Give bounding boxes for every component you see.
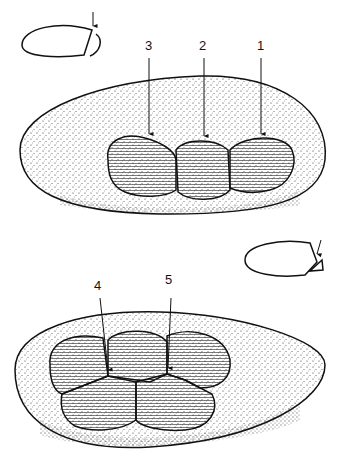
label-3: 3 <box>145 38 152 53</box>
cell-2 <box>176 141 230 199</box>
label-2: 2 <box>199 38 206 53</box>
label-1: 1 <box>257 38 264 53</box>
diagram-canvas: 3 2 1 4 5 <box>0 0 338 461</box>
top-inset-egg <box>22 12 100 57</box>
label-4: 4 <box>94 278 101 293</box>
cell-b <box>108 331 167 382</box>
bottom-inset-egg <box>245 240 323 276</box>
top-egg <box>20 76 325 214</box>
label-5: 5 <box>165 272 172 287</box>
